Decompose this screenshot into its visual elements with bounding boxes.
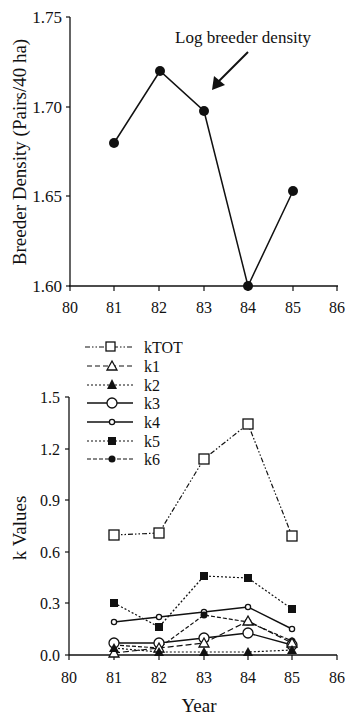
- legend-item-k1: k1: [87, 358, 160, 375]
- bottom-xtick: 81: [106, 669, 122, 686]
- top-xtick: 80: [62, 299, 78, 316]
- top-xtick: 82: [151, 299, 167, 316]
- svg-text:k6: k6: [144, 451, 160, 468]
- bottom-ytick: 1.5: [40, 389, 60, 406]
- figure: 1.75 1.70 1.65 1.60 80 81 82 83 84 85 86…: [0, 0, 355, 722]
- filled-circle-icon: [109, 456, 116, 463]
- svg-text:k4: k4: [144, 414, 160, 431]
- legend-item-k3: k3: [87, 395, 160, 412]
- legend-item-k2: k2: [87, 377, 160, 394]
- small-open-circle-icon: [109, 419, 114, 424]
- top-ytick: 1.65: [32, 187, 62, 206]
- open-square-icon: [106, 342, 115, 351]
- legend-item-k5: k5: [87, 433, 160, 450]
- annotation-arrow: [217, 52, 248, 83]
- legend-item-k4: k4: [87, 414, 160, 431]
- bottom-xtick: 85: [284, 669, 300, 686]
- bottom-ytick: 0.6: [40, 544, 60, 561]
- bottom-xtick: 84: [240, 669, 256, 686]
- top-ytick: 1.70: [32, 98, 62, 117]
- svg-text:k3: k3: [144, 395, 160, 412]
- bottom-xtick: 82: [151, 669, 167, 686]
- bottom-y-axis-label: k Values: [9, 496, 30, 561]
- legend-item-ktot: kTOT: [85, 339, 183, 356]
- bottom-x-axis-label: Year: [181, 695, 217, 716]
- top-xtick: 85: [285, 299, 301, 316]
- top-xtick: 84: [240, 299, 256, 316]
- bottom-chart: 1.5 1.2 0.9 0.6 0.3 0.0 80 81 82 83 84 8…: [9, 339, 345, 716]
- top-xtick: 86: [329, 299, 345, 316]
- top-ytick: 1.75: [32, 8, 62, 27]
- markers-k5: [110, 572, 296, 631]
- legend-item-k6: k6: [87, 451, 160, 468]
- filled-triangle-icon: [107, 379, 117, 389]
- top-ytick: 1.60: [32, 277, 62, 296]
- legend: kTOT k1 k2 k3 k4: [85, 339, 183, 468]
- series-ktot: [114, 424, 292, 536]
- svg-text:kTOT: kTOT: [144, 339, 183, 356]
- svg-text:k2: k2: [144, 377, 160, 394]
- top-xtick: 81: [106, 299, 122, 316]
- svg-text:k5: k5: [144, 433, 160, 450]
- top-xtick: 83: [196, 299, 212, 316]
- top-y-axis-label: Breeder Density (Pairs/40 ha): [9, 39, 31, 265]
- bottom-ytick: 0.9: [40, 492, 60, 509]
- annotation-label: Log breeder density: [175, 28, 311, 47]
- svg-text:k1: k1: [144, 358, 160, 375]
- density-markers: [109, 66, 298, 291]
- bottom-xtick: 86: [329, 669, 345, 686]
- bottom-ytick: 0.3: [40, 595, 60, 612]
- density-line: [114, 71, 293, 286]
- top-chart: 1.75 1.70 1.65 1.60 80 81 82 83 84 85 86…: [9, 8, 345, 316]
- bottom-ytick: 0.0: [40, 647, 60, 664]
- bottom-xtick: 83: [196, 669, 212, 686]
- bottom-xtick: 80: [61, 669, 77, 686]
- filled-square-icon: [108, 437, 116, 445]
- bottom-ytick: 1.2: [40, 441, 60, 458]
- markers-ktot: [109, 419, 297, 541]
- open-circle-icon: [107, 398, 117, 408]
